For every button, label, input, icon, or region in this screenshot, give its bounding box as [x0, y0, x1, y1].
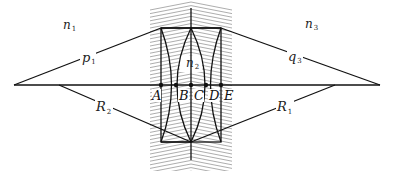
label-b: B: [178, 88, 189, 103]
label-e: E: [223, 88, 234, 103]
point-a: [159, 83, 163, 87]
thick-lens-optics-diagram: A B C D E n1 n2 n3 p1 q3 R2 R1: [0, 0, 394, 171]
point-e: [219, 83, 223, 87]
label-n3: n3: [305, 17, 318, 32]
point-c: [189, 83, 193, 87]
label-a: A: [151, 88, 161, 103]
point-d: [204, 83, 208, 87]
label-d: D: [208, 88, 220, 103]
label-c: C: [194, 88, 204, 103]
point-b: [174, 83, 178, 87]
label-n1: n1: [63, 18, 76, 33]
